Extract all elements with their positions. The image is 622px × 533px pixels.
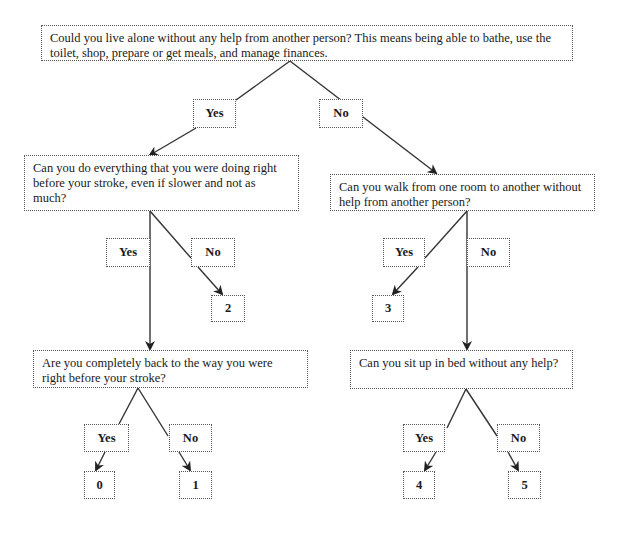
label-q3-no-yes: Yes: [403, 424, 445, 452]
label-q3-yes-no: No: [169, 424, 212, 452]
score-5: 5: [508, 471, 541, 499]
score-2: 2: [211, 295, 245, 322]
label-q2-no-no: No: [467, 238, 510, 267]
label-q3-yes-yes: Yes: [84, 424, 129, 452]
score-4: 4: [403, 471, 435, 499]
question-live-alone: Could you live alone without any help fr…: [41, 25, 573, 61]
label-q2-yes-yes: Yes: [106, 238, 150, 267]
score-0: 0: [84, 471, 115, 499]
connector-lines: [0, 0, 622, 533]
label-q2-no-yes: Yes: [383, 238, 425, 267]
question-sit-up-bed: Can you sit up in bed without any help?: [350, 350, 573, 389]
score-3: 3: [372, 295, 404, 322]
label-q1-yes: Yes: [193, 99, 236, 128]
question-do-everything: Can you do everything that you were doin…: [24, 155, 299, 211]
question-completely-back: Are you completely back to the way you w…: [33, 350, 308, 388]
label-q2-yes-no: No: [191, 238, 235, 267]
label-q3-no-no: No: [497, 424, 540, 452]
score-1: 1: [179, 471, 212, 499]
label-q1-no: No: [319, 99, 363, 128]
question-walk-room: Can you walk from one room to another wi…: [330, 174, 595, 211]
